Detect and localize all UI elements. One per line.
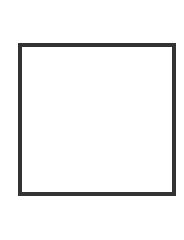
square-outline: [18, 43, 176, 196]
